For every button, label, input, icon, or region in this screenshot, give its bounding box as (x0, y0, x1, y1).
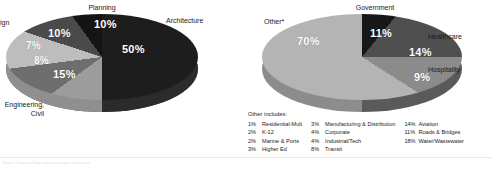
legend-pct: 1% (248, 120, 259, 128)
slice-value-engineering: 15% (53, 69, 76, 80)
market-pie-top-face (262, 14, 462, 100)
legend-item: 3% Higher Ed (248, 145, 302, 153)
legend-item: 14% Aviation (404, 120, 464, 128)
slice-value-other: 70% (297, 36, 320, 47)
legend-item: 4% Corporate (311, 128, 395, 136)
slice-value-government: 11% (370, 28, 392, 39)
label-healthcare: Healthcare (428, 32, 462, 41)
legend-pct: 2% (248, 137, 259, 145)
label-design: ign (0, 18, 9, 27)
legend-column-3: 14% Aviation 11% Roads & Bridges 18% Wat… (404, 120, 464, 154)
label-hospitality: Hospitality (428, 65, 460, 74)
label-engineering-line2: Civil (0, 109, 44, 118)
legend-item: 8% Transit (311, 145, 395, 153)
label-architecture: Architecture (166, 16, 203, 25)
legend-name: K-12 (262, 128, 302, 136)
legend-item: 1% Residential-Mult (248, 120, 302, 128)
slice-value-small-8: 8% (34, 56, 49, 66)
chart-canvas: 50% 15% 8% 7% 10% 10% Planning Architect… (0, 0, 492, 175)
legend-pct: 14% (404, 120, 415, 128)
market-pie-chart: 70% 11% 14% 9% (262, 14, 462, 114)
other-includes-legend: Other includes: 1% Residential-Mult 2% K… (248, 110, 464, 154)
legend-name: Higher Ed (262, 145, 302, 153)
legend-name: Transit (325, 145, 395, 153)
legend-item: 2% Marine & Ports (248, 137, 302, 145)
legend-pct: 3% (248, 145, 259, 153)
footer-divider (0, 157, 492, 158)
legend-name: Roads & Bridges (418, 128, 464, 136)
legend-item: 18% Water/Wastewater (404, 137, 464, 145)
label-engineering-line1: Engineering, (0, 100, 44, 109)
footer-fineprint: Source: Company filings and annual repor… (2, 161, 91, 166)
legend-name: Aviation (418, 120, 464, 128)
legend-pct: 3% (311, 120, 322, 128)
service-pie-chart: 50% 15% 8% 7% 10% 10% (6, 14, 198, 114)
label-government: Government (345, 3, 405, 12)
legend-pct: 11% (404, 128, 415, 136)
slice-value-small-7: 7% (26, 41, 41, 51)
label-planning: Planning (72, 3, 132, 12)
slice-value-architecture: 50% (122, 44, 145, 55)
legend-pct: 4% (311, 137, 322, 145)
legend-pct: 2% (248, 128, 259, 136)
legend-pct: 4% (311, 128, 322, 136)
legend-item: 4% Industrial/Tech (311, 137, 395, 145)
legend-column-1: 1% Residential-Mult 2% K-12 2% Marine & … (248, 120, 302, 154)
slice-value-planning: 10% (94, 19, 117, 30)
label-other: Other* (264, 17, 284, 26)
legend-item: 2% K-12 (248, 128, 302, 136)
legend-name: Residential-Mult (262, 120, 302, 128)
legend-name: Marine & Ports (262, 137, 302, 145)
legend-name: Corporate (325, 128, 395, 136)
legend-name: Water/Wastewater (418, 137, 464, 145)
slice-value-design: 10% (48, 28, 71, 39)
legend-column-2: 3% Manufacturing & Distribution 4% Corpo… (311, 120, 395, 154)
legend-title: Other includes: (248, 110, 464, 118)
legend-columns: 1% Residential-Mult 2% K-12 2% Marine & … (248, 120, 464, 154)
slice-value-healthcare: 14% (409, 47, 432, 58)
legend-pct: 18% (404, 137, 415, 145)
legend-item: 11% Roads & Bridges (404, 128, 464, 136)
legend-name: Industrial/Tech (325, 137, 395, 145)
legend-pct: 8% (311, 145, 322, 153)
legend-item: 3% Manufacturing & Distribution (311, 120, 395, 128)
legend-name: Manufacturing & Distribution (325, 120, 395, 128)
